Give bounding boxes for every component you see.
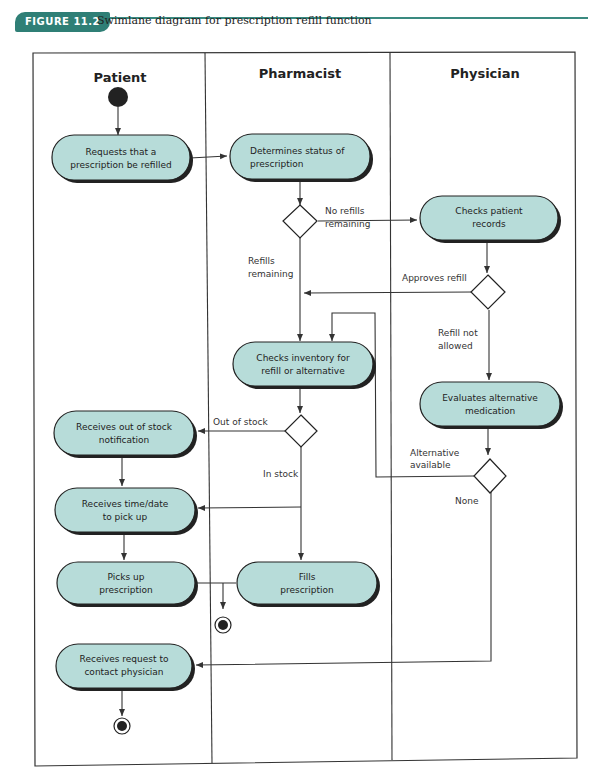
edge bbox=[190, 156, 227, 158]
svg-text:Receives out of stock: Receives out of stock bbox=[76, 422, 173, 432]
edge bbox=[198, 507, 301, 508]
svg-text:medication: medication bbox=[465, 406, 515, 416]
edge-label-out-of-stock: Out of stock bbox=[213, 417, 268, 427]
edge-label-no-refills: remaining bbox=[325, 219, 370, 229]
node-receive-time: Receives time/date to pick up bbox=[55, 488, 198, 535]
edge-label-none: None bbox=[455, 496, 479, 506]
svg-text:prescription be refilled: prescription be refilled bbox=[70, 160, 171, 170]
svg-text:Fills: Fills bbox=[299, 572, 316, 582]
svg-text:Determines status of: Determines status of bbox=[250, 146, 345, 156]
svg-text:contact physician: contact physician bbox=[84, 667, 163, 677]
decision-refills bbox=[283, 205, 317, 238]
svg-text:notification: notification bbox=[99, 435, 150, 445]
svg-text:to pick up: to pick up bbox=[103, 512, 148, 522]
lane-title-physician: Physician bbox=[450, 66, 520, 81]
svg-text:Checks patient: Checks patient bbox=[455, 206, 523, 216]
swimlane-diagram: Patient Pharmacist Physician Requests th… bbox=[0, 0, 600, 783]
lane-divider bbox=[205, 53, 212, 763]
decision-approval bbox=[471, 275, 505, 309]
svg-text:Picks up: Picks up bbox=[108, 572, 145, 582]
node-contact-physician: Receives request to contact physician bbox=[56, 644, 195, 691]
svg-text:Checks inventory for: Checks inventory for bbox=[256, 353, 350, 363]
edge-label-refill-not-allowed: allowed bbox=[438, 341, 473, 351]
edge-label-alternative-available: available bbox=[410, 460, 451, 470]
node-evaluate-alternative: Evaluates alternative medication bbox=[420, 382, 563, 429]
edge-label-refill-not-allowed: Refill not bbox=[438, 328, 478, 338]
svg-text:Receives request to: Receives request to bbox=[80, 654, 169, 664]
node-check-records: Checks patient records bbox=[420, 196, 561, 243]
svg-text:Requests that a: Requests that a bbox=[86, 147, 157, 157]
edge-label-no-refills: No refills bbox=[325, 206, 365, 216]
decision-alternative bbox=[474, 459, 506, 493]
edge-label-in-stock: In stock bbox=[263, 469, 299, 479]
node-pick-up: Picks up prescription bbox=[57, 562, 198, 607]
node-determine-status: Determines status of prescription bbox=[230, 134, 373, 182]
edge-label-refills-remaining: Refills bbox=[248, 256, 275, 266]
decision-stock bbox=[285, 415, 317, 447]
lane-divider bbox=[390, 52, 392, 760]
node-check-inventory: Checks inventory for refill or alternati… bbox=[233, 342, 376, 389]
svg-text:refill or alternative: refill or alternative bbox=[261, 366, 345, 376]
end-node bbox=[215, 617, 231, 633]
svg-text:Receives time/date: Receives time/date bbox=[82, 499, 169, 509]
start-node bbox=[108, 87, 128, 107]
node-fill: Fills prescription bbox=[237, 562, 380, 607]
lane-title-patient: Patient bbox=[94, 70, 147, 85]
svg-text:prescription: prescription bbox=[250, 159, 304, 169]
edge-label-approves-refill: Approves refill bbox=[402, 273, 467, 283]
svg-text:Evaluates alternative: Evaluates alternative bbox=[442, 393, 538, 403]
edge-label-refills-remaining: remaining bbox=[248, 269, 293, 279]
end-node bbox=[114, 718, 130, 734]
node-request-refill: Requests that a prescription be refilled bbox=[52, 135, 193, 183]
svg-text:prescription: prescription bbox=[99, 585, 153, 595]
edge-label-alternative-available: Alternative bbox=[410, 448, 460, 458]
svg-text:prescription: prescription bbox=[280, 585, 334, 595]
edge bbox=[304, 292, 473, 293]
svg-text:records: records bbox=[472, 219, 506, 229]
lane-title-pharmacist: Pharmacist bbox=[259, 66, 341, 81]
node-out-of-stock: Receives out of stock notification bbox=[54, 411, 197, 458]
